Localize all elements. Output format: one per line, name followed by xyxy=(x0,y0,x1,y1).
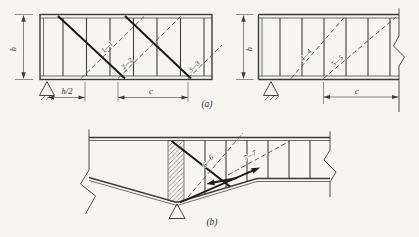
support-a-right xyxy=(264,82,280,101)
bottom-chord xyxy=(89,178,330,206)
diagonal-crack xyxy=(58,16,125,79)
section-label-4-4: 4—4 xyxy=(299,47,314,63)
figure-page: 1—1 2—2 3—3 h h/2 c (a) h xyxy=(0,0,419,237)
beam-b: 6—6 7—7 xyxy=(81,130,337,219)
stirrups xyxy=(63,18,204,76)
stirrups xyxy=(205,141,310,195)
dim-label-c: c xyxy=(149,86,153,96)
beam-a-left: 1—1 2—2 3—3 xyxy=(40,15,222,80)
section-line-7-7 xyxy=(228,142,289,176)
dim-label-h: h xyxy=(244,47,254,51)
dimension-h-half: h/2 xyxy=(48,82,86,102)
dimension-h-right: h xyxy=(236,15,254,80)
dim-label-h: h xyxy=(8,47,18,51)
beam-a-right: 4—4 5—5 xyxy=(259,9,405,113)
section-line-4-4 xyxy=(291,17,345,79)
section-label-6-6: 6—6 xyxy=(201,153,216,169)
diagonal-crack xyxy=(125,16,191,79)
break-line-left xyxy=(81,130,96,215)
dimension-c-right: c xyxy=(324,82,399,104)
dimension-h-left: h xyxy=(8,15,33,80)
section-label-3-3: 3—3 xyxy=(186,59,202,75)
top-chord xyxy=(89,138,330,141)
break-line-right xyxy=(324,132,336,198)
section-line-5-5 xyxy=(324,17,397,79)
support-b xyxy=(169,204,185,219)
section-label-1-1: 1—1 xyxy=(100,40,115,55)
crack-direction-arrow-right xyxy=(180,168,260,203)
caption-a: (a) xyxy=(201,99,212,110)
caption-b: (b) xyxy=(206,217,217,228)
section-line-2-2 xyxy=(118,15,182,79)
dim-label-c: c xyxy=(355,86,359,96)
beam-shear-diagram: 1—1 2—2 3—3 h h/2 c (a) h xyxy=(0,0,419,237)
section-label-2-2: 2—2 xyxy=(120,56,135,71)
dimension-c-left: c xyxy=(118,82,188,102)
dim-label-h-half: h/2 xyxy=(62,86,74,96)
